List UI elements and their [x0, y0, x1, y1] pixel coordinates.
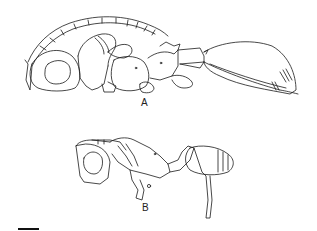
panel-label-a: A — [141, 98, 148, 108]
figure: A B — [0, 0, 317, 231]
panel-label-b: B — [142, 203, 149, 213]
specimen-b-drawing — [0, 0, 317, 231]
scale-bar — [18, 228, 39, 230]
